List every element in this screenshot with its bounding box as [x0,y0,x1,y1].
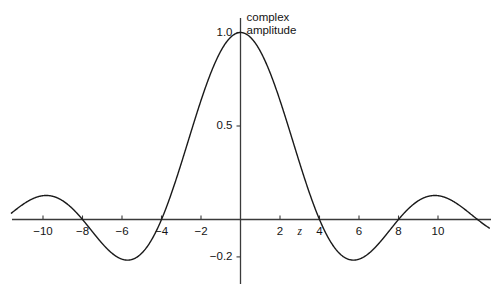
y-tick-label-1: 1.0 [217,27,233,39]
series-annotation-label: complex amplitude [247,11,297,36]
x-tick-label-6: 6 [356,226,362,238]
x-tick-label-2: 2 [277,226,283,238]
x-tick-label-10: 10 [432,226,445,238]
x-tick-label-4: 4 [316,226,322,238]
x-tick-label--10: −10 [33,226,53,238]
plot-canvas [0,0,504,296]
x-axis-label: z [298,226,302,238]
x-tick-label-8: 8 [395,226,401,238]
y-tick-label--0.2: −0.2 [210,251,233,263]
axes-group [12,18,491,284]
chart-figure: complex amplitude −10−8−6−4−2246810 1.00… [0,0,504,296]
x-tick-label--2: −2 [194,226,207,238]
x-tick-label--8: −8 [76,226,89,238]
x-tick-label--6: −6 [115,226,128,238]
y-tick-label-0.5: 0.5 [217,120,233,132]
x-tick-label--4: −4 [155,226,168,238]
